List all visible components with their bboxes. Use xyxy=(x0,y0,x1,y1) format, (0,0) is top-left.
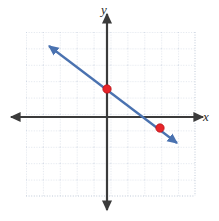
y-axis-label: y xyxy=(101,3,107,16)
grid-lines xyxy=(26,32,195,196)
data-point xyxy=(156,124,164,132)
coordinate-plane-figure: y x xyxy=(0,0,219,221)
x-axis-label: x xyxy=(203,110,209,123)
graph-canvas xyxy=(0,0,219,221)
data-point xyxy=(103,85,111,93)
